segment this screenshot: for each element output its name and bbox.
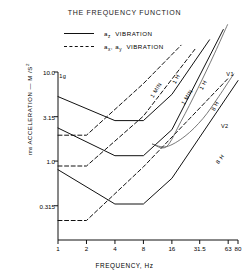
annotation-1g: 1g [59,73,66,79]
curve-az-1-h [58,30,223,156]
data-curves [58,25,238,221]
annotation-v2: V2 [221,123,229,129]
curve-axy-1-h [58,49,195,166]
curve-az-1-min [58,40,210,121]
curve-axy-1-min [58,45,181,135]
chart-root: THE FREQUENCY FUNCTION az VIBRATION ax, … [0,0,249,276]
curve-az-8-h [58,81,238,204]
curve-axy-8-h [58,78,228,220]
axis-spines [54,72,238,244]
chart-plot-area [0,0,249,276]
annotation-v1: V1 [226,71,234,77]
